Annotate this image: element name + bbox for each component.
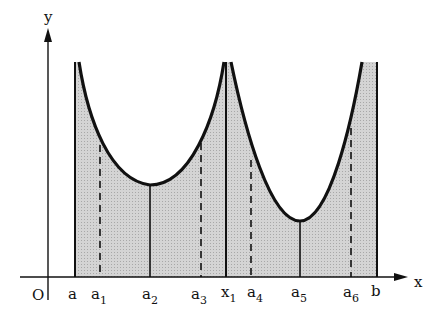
y-axis-label: y	[43, 8, 53, 26]
label-a1: a1	[91, 285, 107, 307]
diagram-canvas: y x O a a1 a2 a3 x1 a4 a5 a6 b	[0, 0, 444, 325]
label-a3: a3	[191, 285, 207, 307]
origin-label: O	[32, 286, 44, 304]
label-a6: a6	[343, 283, 359, 305]
label-x1: x1	[221, 283, 236, 305]
label-a2: a2	[142, 285, 158, 307]
label-a4: a4	[247, 283, 263, 305]
x-tick-labels: a a1 a2 a3 x1 a4 a5 a6 b	[68, 282, 381, 307]
label-a5: a5	[291, 283, 307, 305]
x-axis-arrow-icon	[394, 273, 408, 281]
label-a: a	[68, 285, 77, 303]
label-b: b	[371, 282, 381, 300]
x-axis-label: x	[414, 273, 423, 291]
y-axis-arrow-icon	[44, 28, 52, 42]
